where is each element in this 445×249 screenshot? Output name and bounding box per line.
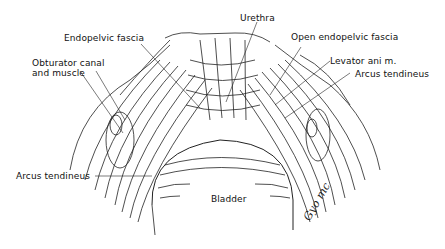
label-bladder: Bladder xyxy=(211,194,247,204)
label-urethra: Urethra xyxy=(240,13,275,23)
label-obturator-canal: Obturator canal xyxy=(32,58,105,68)
label-and-muscle: and muscle xyxy=(32,68,85,78)
label-open-endopelvic-fascia: Open endopelvic fascia xyxy=(291,32,398,42)
anatomy-figure: Urethra Endopelvic fascia Open endopelvi… xyxy=(0,0,445,249)
label-endopelvic-fascia: Endopelvic fascia xyxy=(64,33,144,43)
label-arcus-tendineus-right: Arcus tendineus xyxy=(355,69,429,79)
label-levator-ani: Levator ani m. xyxy=(330,56,396,66)
label-arcus-tendineus-left: Arcus tendineus xyxy=(16,171,90,181)
